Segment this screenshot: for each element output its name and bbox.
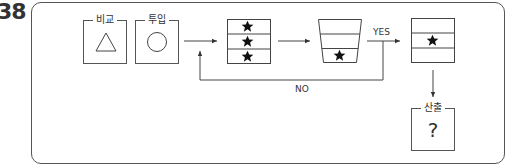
star-icon [427, 35, 439, 46]
star-icon [334, 50, 346, 61]
yes-label: YES [373, 27, 390, 37]
stack-box [228, 20, 271, 64]
result-box [412, 19, 455, 63]
flow-diagram [0, 0, 509, 167]
star-icon [242, 36, 254, 47]
star-icon [242, 21, 254, 32]
filter-trapezoid [319, 20, 362, 63]
no-label: NO [295, 84, 309, 94]
star-icon [242, 51, 254, 62]
